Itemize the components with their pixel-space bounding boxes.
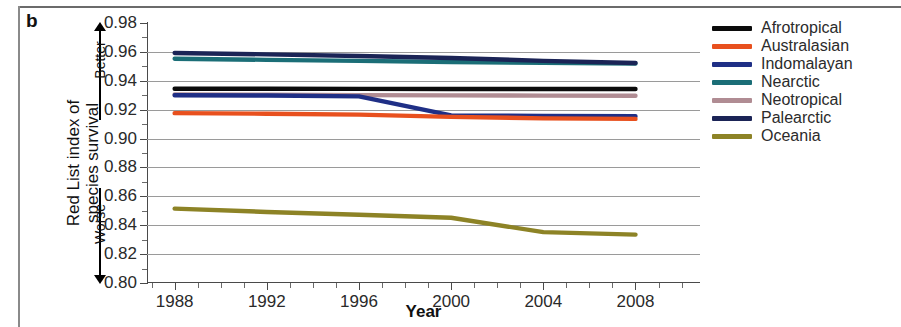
legend-item[interactable]: Indomalayan	[712, 55, 892, 73]
y-axis-tick	[140, 196, 147, 197]
legend-color-swatch	[712, 44, 752, 49]
x-axis-title: Year	[147, 302, 700, 322]
x-axis-tick	[267, 283, 268, 290]
legend-item[interactable]: Nearctic	[712, 73, 892, 91]
y-axis-tick	[140, 225, 147, 226]
x-axis-minor-tick	[612, 283, 613, 288]
figure-frame-top-border	[18, 6, 901, 8]
x-axis-minor-tick	[474, 283, 475, 288]
legend-item-label: Oceania	[761, 127, 821, 145]
y-axis-tick	[140, 81, 147, 82]
x-axis-minor-tick	[382, 283, 383, 288]
x-axis-minor-tick	[659, 283, 660, 288]
y-axis-tick-label: 0.86	[104, 186, 137, 206]
y-axis-tick	[140, 139, 147, 140]
series-lines	[147, 23, 700, 283]
x-axis-tick	[451, 283, 452, 290]
x-axis-minor-tick	[198, 283, 199, 288]
x-axis-minor-tick	[221, 283, 222, 288]
legend-item[interactable]: Afrotropical	[712, 19, 892, 37]
legend-item[interactable]: Palearctic	[712, 109, 892, 127]
y-axis-tick-label: 0.96	[104, 42, 137, 62]
legend-item[interactable]: Australasian	[712, 37, 892, 55]
legend-color-swatch	[712, 62, 752, 67]
legend-color-swatch	[712, 134, 752, 139]
y-axis-tick-label: 0.84	[104, 215, 137, 235]
x-axis-minor-tick	[313, 283, 314, 288]
y-axis-tick	[140, 52, 147, 53]
y-axis-tick-label: 0.88	[104, 157, 137, 177]
legend: AfrotropicalAustralasianIndomalayanNearc…	[712, 19, 892, 145]
x-axis-tick	[635, 283, 636, 290]
x-axis-minor-tick	[428, 283, 429, 288]
y-axis-tick	[140, 254, 147, 255]
x-axis-minor-tick	[566, 283, 567, 288]
x-axis-tick	[543, 283, 544, 290]
y-axis-tick-label: 0.90	[104, 129, 137, 149]
figure-frame-left-border	[18, 6, 20, 327]
y-axis-tick	[140, 110, 147, 111]
x-axis-minor-tick	[290, 283, 291, 288]
x-axis-minor-tick	[497, 283, 498, 288]
x-axis-minor-tick	[336, 283, 337, 288]
x-axis-tick	[359, 283, 360, 290]
y-axis-tick-label: 0.98	[104, 13, 137, 33]
x-axis-minor-tick	[152, 283, 153, 288]
legend-item-label: Palearctic	[761, 109, 831, 127]
x-axis-minor-tick	[682, 283, 683, 288]
x-axis-minor-tick	[520, 283, 521, 288]
legend-item-label: Afrotropical	[761, 19, 842, 37]
y-axis-tick-label: 0.80	[104, 273, 137, 293]
plot-area: 0.980.960.940.920.900.880.860.840.820.80…	[147, 23, 700, 283]
y-axis-tick-label: 0.94	[104, 71, 137, 91]
figure-panel-b: b Red List index of species survival Bet…	[0, 0, 901, 327]
legend-color-swatch	[712, 98, 752, 103]
legend-item-label: Australasian	[761, 37, 849, 55]
series-line	[175, 209, 636, 235]
x-axis-minor-tick	[589, 283, 590, 288]
legend-item-label: Indomalayan	[761, 55, 853, 73]
legend-item[interactable]: Neotropical	[712, 91, 892, 109]
y-axis-tick	[140, 167, 147, 168]
x-axis-minor-tick	[405, 283, 406, 288]
panel-label: b	[26, 10, 38, 32]
legend-color-swatch	[712, 116, 752, 121]
legend-item[interactable]: Oceania	[712, 127, 892, 145]
legend-item-label: Nearctic	[761, 73, 820, 91]
legend-color-swatch	[712, 80, 752, 85]
y-axis-tick-label: 0.82	[104, 244, 137, 264]
x-axis-minor-tick	[244, 283, 245, 288]
y-axis-tick-label: 0.92	[104, 100, 137, 120]
y-axis-tick	[140, 23, 147, 24]
legend-color-swatch	[712, 26, 752, 31]
y-axis-tick	[140, 283, 147, 284]
x-axis-tick	[175, 283, 176, 290]
legend-item-label: Neotropical	[761, 91, 842, 109]
